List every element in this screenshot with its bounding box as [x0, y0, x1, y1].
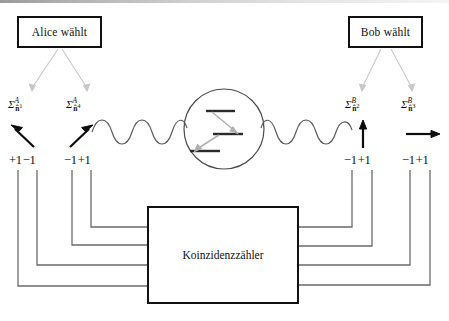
detector-B3-arrowhead-icon: [431, 130, 440, 137]
bob-arrow-to-B3-icon: [391, 49, 412, 88]
sigma-sub-index-A4: 4: [77, 102, 80, 109]
detector-A1-arrowhead-icon: [11, 125, 23, 132]
outcomes-A1: +1−1: [9, 153, 35, 168]
detector-A4-arrowhead-icon: [82, 125, 93, 132]
signal-wires-left: [18, 170, 147, 286]
bob-choice-box[interactable]: Bob wählt: [348, 16, 423, 48]
outcome-B3-first: −1: [402, 153, 415, 168]
alice-choice-arrows: [29, 49, 89, 91]
outcomes-B2: −1+1: [344, 153, 370, 168]
sigma-sub-A1: n̂1: [15, 104, 22, 113]
bob-arrow-to-B2-icon: [362, 49, 381, 88]
figure-canvas: Alice wählt Bob wählt Koinzidenzzähler Σ…: [0, 0, 449, 321]
sigma-sub-index-A1: 1: [19, 102, 22, 109]
signal-wires-right: [299, 170, 430, 285]
wire-right-B2-plus1: [299, 170, 372, 246]
bob-arrow-to-B2-head-icon: [360, 84, 366, 91]
detector-label-A1: ΣAn̂1: [8, 99, 23, 110]
coincidence-counter-box[interactable]: Koinzidenzzähler: [147, 206, 299, 304]
outcome-B2-second: +1: [358, 153, 371, 168]
photon-wave-left-icon: [92, 120, 187, 144]
outcome-A1-first: +1: [9, 153, 22, 168]
outcomes-B3: −1+1: [402, 153, 428, 168]
bob-arrow-to-B3-head-icon: [409, 84, 415, 91]
alice-arrow-to-A4-head-icon: [84, 84, 90, 91]
detector-label-B3: ΣBn̂3: [401, 99, 416, 110]
outcome-A4-first: −1: [64, 153, 77, 168]
outcome-A1-second: −1: [23, 153, 36, 168]
alice-arrow-to-A4-icon: [62, 49, 87, 88]
detector-label-B2: ΣBn̂2: [345, 99, 360, 110]
alice-choice-label: Alice wählt: [32, 26, 88, 38]
outcomes-A4: −1+1: [64, 153, 90, 168]
source-circle-icon: [184, 89, 264, 169]
sigma-sub-index-B2: 2: [356, 102, 359, 109]
sigma-sub-index-B3: 3: [412, 102, 415, 109]
alice-choice-box[interactable]: Alice wählt: [17, 16, 102, 48]
wire-left-A1-minus1: [37, 170, 147, 265]
sigma-sub-B2: n̂2: [352, 104, 359, 113]
sigma-sub-B3: n̂3: [408, 104, 415, 113]
bob-choice-arrows: [360, 49, 415, 91]
outcome-B2-first: −1: [344, 153, 357, 168]
wire-right-B3-minus1: [299, 170, 410, 265]
wire-right-B2-minus1: [299, 170, 352, 227]
detector-label-A4: ΣAn̂4: [66, 99, 81, 110]
outcome-B3-second: +1: [416, 153, 429, 168]
alice-arrow-to-A1-icon: [32, 49, 58, 88]
coincidence-counter-label: Koinzidenzzähler: [182, 249, 263, 261]
sigma-sub-A4: n̂4: [73, 104, 80, 113]
wire-left-A4-minus1: [72, 170, 147, 245]
photon-wave-right-icon: [261, 120, 352, 144]
bob-choice-label: Bob wählt: [361, 26, 410, 38]
wire-left-A4-plus1: [91, 170, 147, 227]
alice-arrow-to-A1-head-icon: [29, 84, 35, 91]
detector-B2-arrowhead-icon: [359, 120, 366, 129]
outcome-A4-second: +1: [78, 153, 91, 168]
